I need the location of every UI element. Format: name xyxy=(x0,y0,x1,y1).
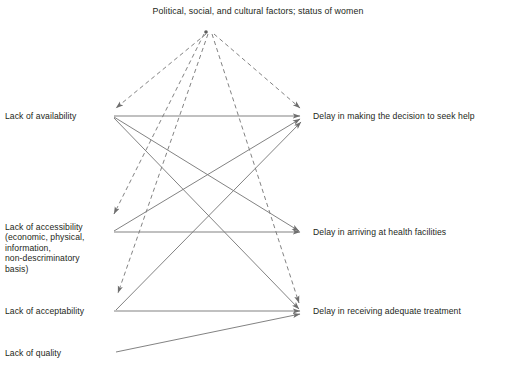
edge-quality-to-delay-treatment xyxy=(116,314,300,352)
edge-context-to-delay-decision xyxy=(214,34,300,108)
node-label-delay-arriving: Delay in arriving at health facilities xyxy=(313,227,446,237)
diagram-edges xyxy=(0,0,516,374)
node-label-delay-treatment: Delay in receiving adequate treatment xyxy=(313,306,461,316)
solid-edge-group xyxy=(114,116,301,352)
context-hub-dot xyxy=(204,30,208,34)
diagram-canvas: Political, social, and cultural factors;… xyxy=(0,0,516,374)
edge-context-to-accessibility xyxy=(114,34,204,214)
node-label-accessibility: Lack of accessibility (economic, physica… xyxy=(5,222,85,274)
hub-dot xyxy=(204,30,208,34)
node-label-quality: Lack of quality xyxy=(5,348,61,358)
node-label-availability: Lack of availability xyxy=(5,111,76,121)
node-label-acceptability: Lack of acceptability xyxy=(5,306,84,316)
dashed-edge-group xyxy=(114,34,300,303)
edge-context-to-acceptability xyxy=(118,34,208,293)
node-label-delay-decision: Delay in making the decision to seek hel… xyxy=(313,111,475,121)
edge-context-to-availability xyxy=(116,34,206,108)
